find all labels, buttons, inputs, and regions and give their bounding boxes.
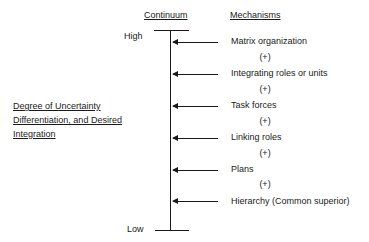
continuum-header: Continuum	[144, 10, 188, 21]
arrow-left-icon	[173, 74, 218, 75]
arrow-left-icon	[173, 42, 218, 43]
mechanism-task-forces: Task forces	[231, 100, 277, 111]
axis-label-line3: Integration	[13, 129, 56, 140]
mechanism-hierarchy: Hierarchy (Common superior)	[231, 196, 350, 207]
low-label: Low	[127, 224, 144, 235]
high-label: High	[124, 31, 143, 42]
continuum-axis	[170, 30, 171, 231]
continuum-top-bar	[154, 30, 189, 31]
plus-separator: (+)	[250, 116, 280, 127]
arrow-left-icon	[173, 170, 218, 171]
plus-separator: (+)	[250, 179, 280, 190]
mechanisms-header: Mechanisms	[230, 10, 281, 21]
arrow-left-icon	[173, 201, 218, 202]
plus-separator: (+)	[250, 84, 280, 95]
axis-label-line2: Differentiation, and Desired	[13, 115, 122, 126]
arrow-left-icon	[173, 106, 218, 107]
mechanism-matrix-organization: Matrix organization	[231, 36, 307, 47]
mechanism-linking-roles: Linking roles	[231, 132, 282, 143]
axis-label-line1: Degree of Uncertainty	[13, 101, 101, 112]
plus-separator: (+)	[250, 148, 280, 159]
arrow-left-icon	[173, 138, 218, 139]
mechanism-plans: Plans	[231, 164, 254, 175]
mechanism-integrating-roles: Integrating roles or units	[231, 68, 328, 79]
plus-separator: (+)	[250, 52, 280, 63]
continuum-bottom-bar	[155, 230, 189, 231]
